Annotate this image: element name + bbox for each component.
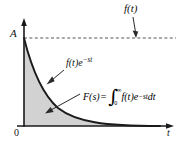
label-f-of-t: f(t) (124, 3, 137, 14)
integral-upper-limit: ∞ (117, 87, 121, 93)
label-t-axis: t (167, 128, 170, 138)
label-origin: 0 (14, 128, 19, 138)
label-amplitude-a: A (10, 28, 17, 39)
integral-group: ∫ ∞ 0 (108, 88, 120, 105)
area-leader-line (51, 94, 80, 110)
laplace-transform-figure: f(t) A f(t)e−st F(s) = ∫ ∞ 0 f(t)e−stdt … (0, 0, 179, 148)
figure-canvas (0, 0, 179, 148)
formula-lhs: F(s) (83, 91, 100, 102)
ft-leader-line (133, 17, 136, 32)
integrand-base: f(t)e (122, 91, 139, 102)
integrand-exponent: −st (138, 93, 148, 101)
formula-equals-sign: = (101, 91, 107, 102)
y-axis-arrowhead (21, 18, 27, 26)
formula-differential: dt (148, 91, 156, 102)
laplace-integral-formula: F(s) = ∫ ∞ 0 f(t)e−stdt (83, 88, 156, 105)
curve-label-base: f(t)e (66, 57, 83, 68)
label-curve-expression: f(t)e−st (66, 57, 92, 68)
shaded-area-under-curve (24, 38, 160, 126)
integral-lower-limit: 0 (114, 100, 118, 106)
ft-leader-arrowhead (133, 31, 139, 38)
curve-label-exponent: −st (83, 56, 93, 64)
curve-leader-line (52, 70, 64, 80)
curve-leader-arrowhead (47, 76, 55, 84)
